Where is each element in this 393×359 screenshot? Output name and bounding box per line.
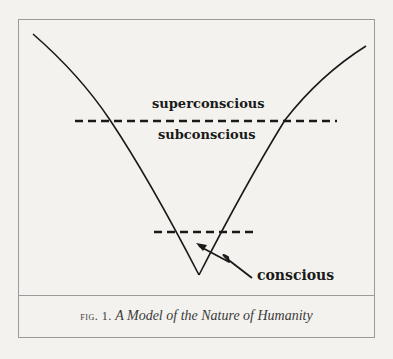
label-superconscious: superconscious (152, 97, 265, 110)
caption-title: A Model of the Nature of Humanity (115, 308, 313, 323)
figure-page: superconscious subconscious conscious fi… (0, 0, 393, 359)
pointer-arrow-icon (196, 243, 252, 278)
label-subconscious: subconscious (158, 128, 256, 141)
caption-prefix: fig. 1. (80, 309, 111, 323)
left-curve (33, 34, 199, 275)
right-curve (199, 46, 366, 275)
label-conscious: conscious (257, 268, 334, 282)
figure-caption: fig. 1. A Model of the Nature of Humanit… (18, 309, 375, 323)
humanity-model-diagram (0, 0, 393, 359)
